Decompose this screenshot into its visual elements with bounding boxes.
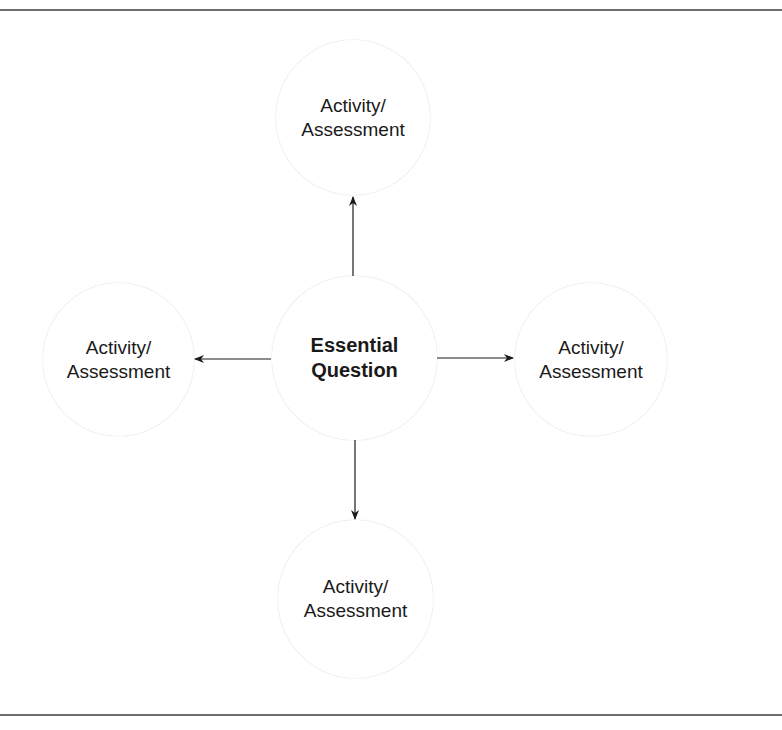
node-bottom-activity-assessment: Activity/ Assessment [278, 520, 433, 678]
node-label-line1: Activity/ [67, 336, 170, 360]
node-center-essential-question: Essential Question [272, 276, 437, 440]
center-label-line2: Question [311, 358, 399, 383]
center-label-line1: Essential [311, 333, 399, 358]
node-label-line2: Assessment [304, 599, 407, 623]
node-label-line1: Activity/ [304, 575, 407, 599]
node-label-line1: Activity/ [539, 336, 642, 360]
node-label-line2: Assessment [67, 360, 170, 384]
node-top-activity-assessment: Activity/ Assessment [276, 40, 430, 195]
node-left-activity-assessment: Activity/ Assessment [43, 283, 194, 436]
node-label-line1: Activity/ [301, 94, 404, 118]
node-label-line2: Assessment [301, 118, 404, 142]
node-right-activity-assessment: Activity/ Assessment [515, 283, 667, 436]
node-label-line2: Assessment [539, 360, 642, 384]
